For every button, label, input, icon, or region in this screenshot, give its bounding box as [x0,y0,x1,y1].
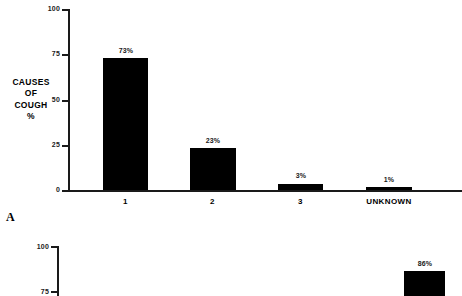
panel-letter-a: A [6,210,15,225]
y-tick-label-100: 100 [34,5,60,12]
chart-panel-b: 100 75 86% [0,236,462,296]
y-axis-title: CAUSES OF COUGH % [0,77,62,123]
y-tick-label-75: 75 [34,50,60,57]
y-tick-mark-50 [62,100,69,102]
y-tick-label-25: 25 [34,141,60,148]
figure-canvas: 100 75 50 25 0 CAUSES OF COUGH % 73% 23%… [0,0,462,296]
bar-category-3 [278,184,323,190]
x-tick-label-1: 1 [99,198,152,206]
bar-category-1 [103,58,148,190]
y-tick-label-75: 75 [24,288,49,295]
y-axis-line [57,246,59,296]
y-tick-label-0: 0 [34,186,60,193]
bar-value-86: 86% [399,260,451,267]
bar-value-1: 73% [100,47,152,54]
y-tick-mark-100 [62,9,69,11]
y-tick-mark-75 [51,291,58,293]
x-tick-label-3: 3 [274,198,327,206]
y-tick-mark-0 [62,190,69,192]
x-tick-label-2: 2 [186,198,239,206]
bar-86-percent [404,271,445,296]
bar-category-unknown [366,187,412,190]
bar-category-2 [190,148,236,190]
y-tick-label-100: 100 [24,243,49,250]
x-tick-label-unknown: UNKNOWN [355,198,423,206]
bar-value-unknown: 1% [363,176,415,183]
bar-value-2: 23% [187,137,239,144]
y-tick-mark-75 [62,54,69,56]
chart-panel-a: 100 75 50 25 0 CAUSES OF COUGH % 73% 23%… [0,0,462,205]
x-axis-line [68,190,462,192]
y-tick-mark-25 [62,145,69,147]
bar-value-3: 3% [275,172,327,179]
y-tick-mark-100 [51,246,58,248]
